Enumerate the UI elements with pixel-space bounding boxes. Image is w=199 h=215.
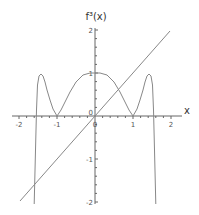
x-tick-label: -1 xyxy=(54,121,61,129)
y-tick-label: -2 xyxy=(86,199,93,207)
y-axis-label: f³(x) xyxy=(85,11,106,22)
y-tick-label: 1 xyxy=(89,70,93,78)
x-tick-label: -2 xyxy=(16,121,23,129)
chart: -2 -1 0 1 2 2 1 -1 -2 0 f³(x) x xyxy=(0,0,199,215)
y-tick-label: -1 xyxy=(86,156,93,164)
x-axis-label: x xyxy=(184,105,190,116)
x-tick-label: 2 xyxy=(169,121,173,129)
y-tick-label: 2 xyxy=(89,27,93,35)
origin-label: 0 xyxy=(89,109,93,117)
x-tick-label: 0 xyxy=(93,121,97,129)
x-tick-label: 1 xyxy=(131,121,135,129)
